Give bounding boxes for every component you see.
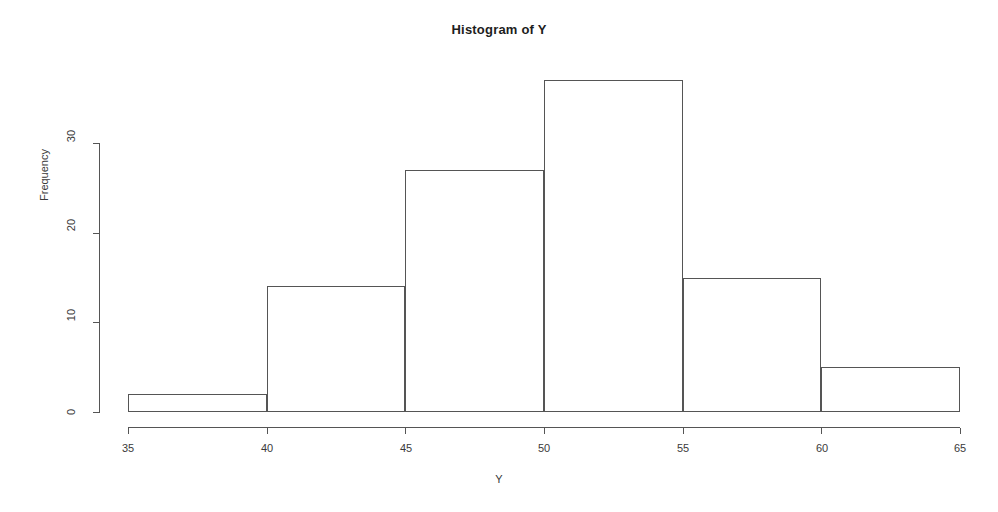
plot-area	[0, 0, 998, 512]
histogram-bar	[129, 395, 267, 412]
histogram-bars	[129, 81, 960, 412]
histogram-figure: Histogram of Y Frequency Y 0 10 20 30 35…	[0, 0, 998, 512]
histogram-bar	[267, 287, 405, 412]
histogram-bar	[822, 368, 960, 412]
histogram-bar	[406, 170, 544, 411]
histogram-bar	[545, 81, 683, 412]
histogram-bar	[683, 278, 821, 412]
